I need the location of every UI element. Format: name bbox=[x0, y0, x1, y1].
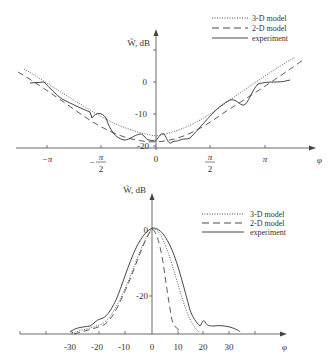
bottom-legend: 3-D model 2-D model experiment bbox=[202, 210, 287, 237]
top-legend-3d: 3-D model bbox=[252, 14, 287, 23]
top-xtick-half-pi: π 2 bbox=[205, 152, 215, 174]
bottom-y-label: W̃, dB bbox=[123, 185, 146, 195]
bottom-legend-3d: 3-D model bbox=[250, 210, 285, 219]
bottom-y-arrow-icon bbox=[150, 193, 155, 200]
top-ytick-10: -10 bbox=[135, 109, 147, 119]
bottom-ytick-20: -20 bbox=[136, 291, 148, 301]
top-chart: 0 -10 -20 −π − π 2 0 π 2 π W̃, dB φ 3-D … bbox=[16, 14, 322, 174]
svg-text:π: π bbox=[208, 152, 213, 162]
top-y-label: W̃, dB bbox=[127, 38, 150, 48]
bottom-chart: -30 -20 -10 0 10 20 30 0 -20 W̃, dB φ 3-… bbox=[20, 185, 287, 352]
bottom-ytick-0: 0 bbox=[144, 225, 149, 235]
top-xtick-pi: π bbox=[263, 154, 268, 164]
svg-text:π: π bbox=[99, 152, 104, 162]
bottom-x-arrow-icon bbox=[280, 332, 287, 337]
top-y-arrow-icon bbox=[154, 29, 159, 36]
bottom-series-experiment bbox=[70, 228, 240, 332]
svg-text:2: 2 bbox=[99, 164, 104, 174]
bottom-legend-experiment: experiment bbox=[250, 228, 287, 237]
top-xtick-neg-pi: −π bbox=[42, 154, 53, 164]
bottom-xtick-neg30: -30 bbox=[64, 342, 76, 352]
bottom-xtick-neg20: -20 bbox=[91, 342, 103, 352]
bottom-x-label: φ bbox=[282, 342, 287, 352]
top-series-experiment bbox=[30, 80, 290, 143]
top-xtick-neg-half-pi: − π 2 bbox=[89, 152, 106, 174]
bottom-xtick-neg10: -10 bbox=[118, 342, 130, 352]
figure: 0 -10 -20 −π − π 2 0 π 2 π W̃, dB φ 3-D … bbox=[0, 0, 335, 364]
svg-text:−: − bbox=[89, 157, 94, 167]
top-ytick-0: 0 bbox=[143, 77, 148, 87]
bottom-xtick-30: 30 bbox=[225, 342, 235, 352]
bottom-legend-2d: 2-D model bbox=[250, 219, 285, 228]
bottom-xtick-10: 10 bbox=[174, 342, 184, 352]
top-legend-experiment: experiment bbox=[252, 34, 289, 43]
top-x-arrow-icon bbox=[309, 146, 316, 151]
top-legend-2d: 2-D model bbox=[252, 24, 287, 33]
svg-text:2: 2 bbox=[208, 164, 213, 174]
top-series-3d-model bbox=[24, 57, 295, 136]
bottom-series-3d-model bbox=[72, 229, 200, 333]
bottom-xtick-20: 20 bbox=[199, 342, 209, 352]
top-x-label: φ bbox=[317, 155, 322, 165]
top-ytick-20: -20 bbox=[137, 141, 149, 151]
top-series-2d-model bbox=[18, 60, 303, 142]
bottom-xtick-0: 0 bbox=[150, 342, 155, 352]
bottom-series-2d-model bbox=[74, 229, 179, 334]
top-xtick-zero: 0 bbox=[154, 154, 159, 164]
top-legend: 3-D model 2-D model experiment bbox=[212, 14, 289, 43]
